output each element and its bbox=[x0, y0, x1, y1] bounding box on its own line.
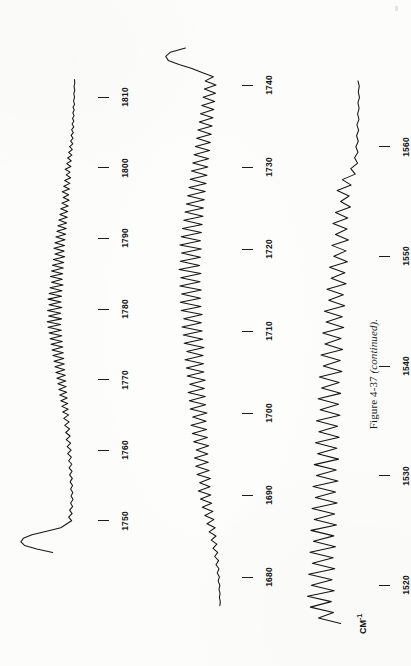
axis-tick-mark bbox=[242, 577, 253, 578]
spectrum-trace-2 bbox=[150, 0, 275, 666]
figure-caption: Figure 4-37 (continued). bbox=[367, 319, 379, 429]
axis-tick-label: 1540 bbox=[401, 355, 411, 377]
axis-tick-mark bbox=[98, 520, 109, 521]
axis-tick-label: 1810 bbox=[120, 86, 130, 108]
spectrum-panel-1: 1750176017701780179018001810 bbox=[10, 0, 135, 666]
axis-tick-label: 1790 bbox=[120, 227, 130, 249]
axis-tick-mark bbox=[379, 146, 390, 147]
axis-tick-label: 1730 bbox=[264, 156, 274, 178]
axis-unit-label: CM-1 bbox=[356, 614, 368, 634]
axis-tick-mark bbox=[98, 450, 109, 451]
axis-tick-mark bbox=[98, 379, 109, 380]
axis-tick-label: 1770 bbox=[120, 369, 130, 391]
axis-tick-mark bbox=[379, 475, 390, 476]
spectrum-curve bbox=[21, 80, 75, 553]
spectrum-panel-3: 15201530154015501560 bbox=[285, 0, 410, 666]
axis-tick-label: 1780 bbox=[120, 298, 130, 320]
axis-tick-label: 1690 bbox=[264, 484, 274, 506]
axis-tick-label: 1520 bbox=[401, 574, 411, 596]
axis-tick-mark bbox=[242, 167, 253, 168]
caption-continued-note: (continued). bbox=[367, 319, 379, 374]
axis-tick-label: 1760 bbox=[120, 439, 130, 461]
axis-tick-mark bbox=[242, 249, 253, 250]
axis-tick-mark bbox=[242, 331, 253, 332]
axis-tick-label: 1700 bbox=[264, 402, 274, 424]
axis-tick-label: 1680 bbox=[264, 566, 274, 588]
axis-tick-label: 1710 bbox=[264, 320, 274, 342]
axis-tick-mark bbox=[242, 413, 253, 414]
axis-tick-label: 1750 bbox=[120, 510, 130, 532]
axis-tick-mark bbox=[98, 167, 109, 168]
axis-tick-mark bbox=[98, 238, 109, 239]
axis-tick-mark bbox=[379, 366, 390, 367]
axis-tick-label: 1800 bbox=[120, 157, 130, 179]
axis-tick-mark bbox=[379, 256, 390, 257]
axis-unit-exponent: -1 bbox=[356, 614, 363, 620]
caption-figure-number: Figure 4-37 bbox=[367, 376, 379, 429]
axis-tick-mark bbox=[242, 85, 253, 86]
axis-tick-label: 1560 bbox=[401, 136, 411, 158]
axis-tick-label: 1740 bbox=[264, 74, 274, 96]
axis-tick-mark bbox=[242, 495, 253, 496]
spectrum-trace-1 bbox=[10, 0, 135, 666]
axis-tick-mark bbox=[98, 97, 109, 98]
spectrum-curve bbox=[166, 48, 221, 606]
axis-tick-mark bbox=[98, 309, 109, 310]
figure-page: 1750176017701780179018001810 16801690170… bbox=[0, 0, 411, 666]
spectrum-trace-3 bbox=[285, 0, 410, 666]
spectrum-panel-2: 1680169017001710172017301740 bbox=[150, 0, 275, 666]
axis-tick-label: 1720 bbox=[264, 238, 274, 260]
axis-tick-label: 1550 bbox=[401, 245, 411, 267]
axis-tick-label: 1530 bbox=[401, 465, 411, 487]
axis-unit-text: CM bbox=[358, 620, 368, 634]
spectrum-curve bbox=[307, 81, 359, 624]
axis-tick-mark bbox=[379, 585, 390, 586]
